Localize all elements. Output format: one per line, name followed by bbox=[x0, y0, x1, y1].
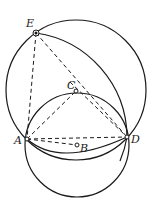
label-B: B bbox=[79, 142, 88, 155]
label-D: D bbox=[130, 133, 140, 146]
point-A bbox=[25, 137, 29, 141]
label-C: C bbox=[67, 79, 76, 92]
point-E-center bbox=[35, 32, 38, 35]
segment-E-A bbox=[27, 33, 36, 139]
label-A: A bbox=[13, 134, 22, 147]
point-B bbox=[75, 143, 79, 147]
geometry-diagram: E C A B D bbox=[0, 0, 153, 205]
label-E: E bbox=[25, 17, 34, 30]
segment-A-D bbox=[27, 137, 127, 139]
point-D bbox=[125, 135, 129, 139]
segment-C-D bbox=[70, 82, 127, 137]
